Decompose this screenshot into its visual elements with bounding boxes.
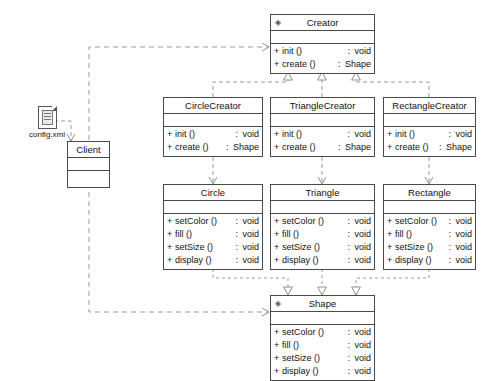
- operation-type: Shape: [343, 141, 371, 154]
- visibility: +: [274, 339, 282, 352]
- class-client-operations: [68, 171, 109, 187]
- operation-name: fill (): [282, 339, 347, 352]
- class-client-header: Client: [68, 142, 109, 158]
- visibility: +: [274, 141, 282, 154]
- operation-row: + setColor () : void: [384, 215, 475, 228]
- visibility: +: [167, 215, 175, 228]
- edge-rectanglecreator-to-creator: [356, 72, 429, 97]
- uml-class-diagram: config.xml ◈ Creator + init () : void + …: [0, 0, 482, 381]
- visibility: +: [274, 128, 282, 141]
- visibility: +: [387, 215, 395, 228]
- interface-icon: ◈: [274, 300, 282, 308]
- operation-name: init (): [282, 128, 347, 141]
- visibility: +: [274, 58, 282, 71]
- class-circle-header: Circle: [164, 185, 262, 201]
- class-triangle[interactable]: Triangle + setColor () : void + fill () …: [270, 184, 375, 270]
- class-creator-name: Creator: [307, 17, 339, 28]
- class-trianglecreator-attributes: [271, 114, 374, 127]
- operation-type: Shape: [444, 141, 472, 154]
- operation-name: fill (): [282, 228, 347, 241]
- operation-name: create (): [282, 141, 338, 154]
- class-circlecreator-operations: + init () : void + create () : Shape: [164, 127, 262, 156]
- operation-row: + init () : void: [164, 128, 262, 141]
- operation-name: fill (): [175, 228, 235, 241]
- operation-name: init (): [282, 45, 347, 58]
- class-rectangle-header: Rectangle: [384, 185, 475, 201]
- operation-row: + display () : void: [271, 365, 374, 378]
- class-rectangle-attributes: [384, 201, 475, 214]
- operation-row: + init () : void: [271, 128, 374, 141]
- operation-name: setSize (): [395, 241, 448, 254]
- class-client-attributes: [68, 158, 109, 171]
- xml-document-icon: [38, 106, 57, 129]
- class-circlecreator[interactable]: CircleCreator + init () : void + create …: [163, 97, 263, 157]
- operation-name: setSize (): [282, 241, 347, 254]
- operation-row: + create () : Shape: [271, 141, 374, 154]
- operation-name: setColor (): [282, 215, 347, 228]
- operation-type: void: [240, 228, 259, 241]
- edge-circlecreator-to-creator: [213, 72, 288, 97]
- visibility: +: [387, 241, 395, 254]
- operation-type: void: [352, 352, 371, 365]
- artifact-config-xml[interactable]: config.xml: [18, 106, 76, 139]
- class-client[interactable]: Client: [67, 141, 110, 188]
- operation-type: void: [352, 45, 371, 58]
- visibility: +: [274, 326, 282, 339]
- operation-row: + setSize () : void: [164, 241, 262, 254]
- class-shape-attributes: [271, 312, 374, 325]
- operation-name: init (): [395, 128, 448, 141]
- class-shape[interactable]: ◈ Shape + setColor () : void + fill () :…: [270, 295, 375, 381]
- visibility: +: [274, 45, 282, 58]
- class-triangle-operations: + setColor () : void + fill () : void + …: [271, 214, 374, 269]
- edge-rectangle-to-shape: [356, 269, 429, 295]
- class-rectangle-name: Rectangle: [408, 187, 451, 198]
- visibility: +: [274, 365, 282, 378]
- class-rectanglecreator-operations: + init () : void + create () : Shape: [384, 127, 475, 156]
- edge-circle-to-shape: [213, 269, 288, 295]
- operation-type: Shape: [343, 58, 371, 71]
- operation-type: void: [352, 215, 371, 228]
- visibility: +: [387, 228, 395, 241]
- operation-row: + create () : Shape: [384, 141, 475, 154]
- class-shape-header: ◈ Shape: [271, 296, 374, 312]
- class-circlecreator-name: CircleCreator: [185, 100, 241, 111]
- class-rectangle[interactable]: Rectangle + setColor () : void + fill ()…: [383, 184, 476, 270]
- class-shape-operations: + setColor () : void + fill () : void + …: [271, 325, 374, 380]
- class-rectanglecreator-name: RectangleCreator: [392, 100, 466, 111]
- class-triangle-name: Triangle: [306, 187, 340, 198]
- operation-type: void: [240, 215, 259, 228]
- class-circle-attributes: [164, 201, 262, 214]
- visibility: +: [274, 228, 282, 241]
- operation-type: void: [352, 128, 371, 141]
- visibility: +: [167, 241, 175, 254]
- class-circle[interactable]: Circle + setColor () : void + fill () : …: [163, 184, 263, 270]
- operation-type: void: [453, 254, 472, 267]
- class-trianglecreator[interactable]: TriangleCreator + init () : void + creat…: [270, 97, 375, 157]
- class-circle-operations: + setColor () : void + fill () : void + …: [164, 214, 262, 269]
- operation-name: display (): [282, 365, 347, 378]
- operation-name: display (): [282, 254, 347, 267]
- class-circlecreator-attributes: [164, 114, 262, 127]
- class-rectanglecreator-header: RectangleCreator: [384, 98, 475, 114]
- class-triangle-header: Triangle: [271, 185, 374, 201]
- operation-name: setColor (): [175, 215, 235, 228]
- operation-name: init (): [175, 128, 235, 141]
- operation-row: + init () : void: [271, 45, 374, 58]
- visibility: +: [274, 215, 282, 228]
- operation-row: + setSize () : void: [384, 241, 475, 254]
- operation-type: void: [352, 228, 371, 241]
- visibility: +: [387, 254, 395, 267]
- visibility: +: [274, 241, 282, 254]
- visibility: +: [274, 352, 282, 365]
- operation-row: + setSize () : void: [271, 241, 374, 254]
- class-shape-name: Shape: [309, 298, 336, 309]
- class-rectanglecreator[interactable]: RectangleCreator + init () : void + crea…: [383, 97, 476, 157]
- visibility: +: [167, 228, 175, 241]
- class-triangle-attributes: [271, 201, 374, 214]
- operation-type: void: [352, 241, 371, 254]
- operation-type: void: [352, 254, 371, 267]
- class-creator[interactable]: ◈ Creator + init () : void + create () :…: [270, 14, 375, 74]
- class-trianglecreator-name: TriangleCreator: [290, 100, 356, 111]
- operation-name: setColor (): [395, 215, 448, 228]
- operation-row: + display () : void: [164, 254, 262, 267]
